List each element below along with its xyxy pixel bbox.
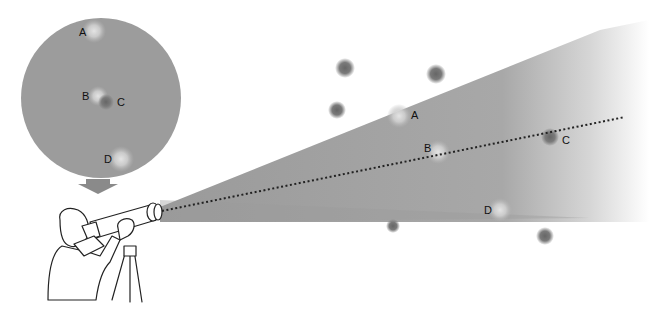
down-arrow-icon — [78, 179, 118, 194]
star-outside — [426, 64, 446, 84]
sky-label-c: C — [562, 134, 570, 146]
star-outside — [386, 219, 400, 233]
star-outside — [536, 227, 554, 245]
telescope-diagram: A B C D A B C D — [0, 0, 649, 311]
inset-label-b: B — [82, 90, 89, 102]
sky-label-b: B — [424, 142, 431, 154]
inset-label-c: C — [117, 96, 125, 108]
star-outside — [328, 101, 346, 119]
inset-label-a: A — [79, 26, 87, 38]
sky-label-d: D — [484, 204, 492, 216]
inset-label-d: D — [104, 153, 112, 165]
sky-label-a: A — [411, 109, 419, 121]
star-outside — [335, 58, 355, 78]
star-a — [387, 104, 411, 128]
inset-star-c — [98, 94, 114, 110]
observer-with-telescope — [48, 203, 162, 302]
